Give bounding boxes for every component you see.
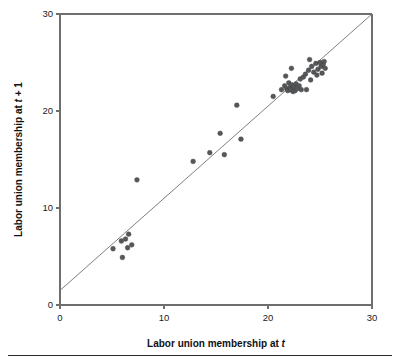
data-point [308, 78, 313, 83]
data-point [191, 159, 196, 164]
data-point [120, 255, 125, 260]
data-point [299, 87, 304, 92]
y-axis-title-prefix: Labor union membership at [13, 102, 24, 236]
data-point [304, 87, 309, 92]
x-axis-title-variable: t [282, 338, 286, 349]
y-tick-label: 0 [48, 299, 53, 310]
data-point [129, 242, 134, 247]
data-point [314, 73, 319, 78]
x-tick-label: 0 [57, 312, 62, 323]
data-point [207, 150, 212, 155]
data-point [306, 68, 311, 73]
data-point [289, 66, 294, 71]
data-point [239, 137, 244, 142]
data-point [222, 152, 227, 157]
data-point [234, 103, 239, 108]
data-point-group [111, 57, 328, 260]
data-point [135, 177, 140, 182]
data-point [123, 237, 128, 242]
y-axis-title: Labor union membership at t + 1 [13, 82, 24, 237]
data-point [125, 245, 130, 250]
x-axis-title-prefix: Labor union membership at [147, 338, 281, 349]
y-tick-label: 30 [42, 8, 53, 19]
data-point [320, 71, 325, 76]
data-point [307, 57, 312, 62]
scatter-plot-figure: 01020300102030Labor union membership at … [0, 0, 400, 364]
y-axis-title-suffix: + 1 [13, 82, 24, 99]
y-tick-label: 10 [42, 202, 53, 213]
data-point [126, 232, 131, 237]
data-point [322, 59, 327, 64]
reference-line [60, 14, 372, 290]
chart-canvas: 01020300102030Labor union membership at … [0, 0, 400, 364]
data-point [218, 131, 223, 136]
x-tick-label: 10 [159, 312, 170, 323]
data-point [111, 246, 116, 251]
x-tick-label: 20 [263, 312, 274, 323]
data-point [323, 66, 328, 71]
x-tick-label: 30 [367, 312, 378, 323]
data-point [279, 87, 284, 92]
data-point [283, 74, 288, 79]
x-axis-title: Labor union membership at t [147, 338, 285, 349]
data-point [309, 64, 314, 69]
data-point [303, 72, 308, 77]
data-point [271, 94, 276, 99]
y-tick-label: 20 [42, 105, 53, 116]
